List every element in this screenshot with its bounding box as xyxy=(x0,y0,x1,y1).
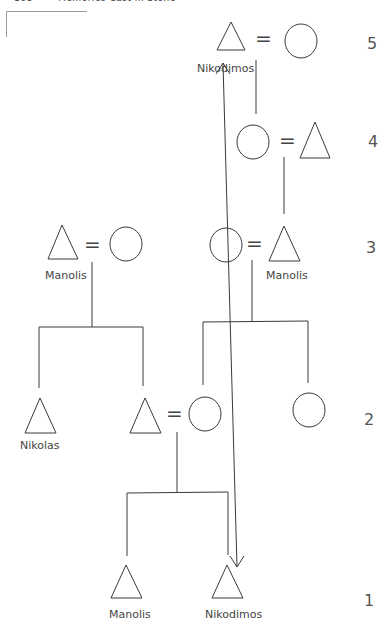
marriage-symbol: = xyxy=(166,401,183,425)
male-triangle-icon xyxy=(130,398,161,433)
name-label: Nikodimos xyxy=(205,608,262,621)
sibling-bar xyxy=(203,321,308,322)
male-triangle-icon xyxy=(25,398,56,433)
gen1-right-individual: Nikodimos xyxy=(205,565,262,621)
gen2-left-individual: Nikolas xyxy=(20,398,60,452)
generation-number: 2 xyxy=(364,410,374,429)
generation-number: 5 xyxy=(367,34,377,53)
female-circle-icon xyxy=(189,397,221,431)
male-triangle-icon xyxy=(48,225,78,259)
gen3-right-couple: = Manolis xyxy=(210,226,308,282)
marriage-symbol: = xyxy=(246,231,263,255)
male-triangle-icon xyxy=(212,565,243,598)
generation-number: 3 xyxy=(366,238,376,257)
male-triangle-icon xyxy=(217,22,245,50)
name-label: Manolis xyxy=(266,269,308,282)
gen3-left-couple: = Manolis xyxy=(45,225,142,282)
male-triangle-icon xyxy=(111,565,142,598)
generation-number: 1 xyxy=(364,591,374,610)
name-label: Nikodimos xyxy=(197,62,254,75)
sibling-bar xyxy=(127,492,228,493)
gen4-couple: = xyxy=(237,122,330,159)
gen5-couple: = Nikodimos xyxy=(197,22,317,75)
kinship-diagram: = Nikodimos = = Manolis = Manolis Nikola… xyxy=(0,0,386,630)
female-circle-icon xyxy=(237,125,269,159)
female-circle-icon xyxy=(285,24,317,58)
name-label: Nikolas xyxy=(20,439,60,452)
marriage-symbol: = xyxy=(255,26,272,50)
female-circle-icon xyxy=(110,227,142,261)
gen1-left-individual: Manolis xyxy=(109,565,151,621)
marriage-symbol: = xyxy=(84,232,101,256)
generation-number: 4 xyxy=(368,132,378,151)
female-circle-icon xyxy=(293,393,325,427)
namesake-arrow xyxy=(223,63,237,567)
gen2-couple: = xyxy=(130,397,221,433)
male-triangle-icon xyxy=(300,122,330,158)
name-label: Manolis xyxy=(109,608,151,621)
marriage-symbol: = xyxy=(279,128,296,152)
male-triangle-icon xyxy=(269,226,300,261)
name-label: Manolis xyxy=(45,269,87,282)
female-circle-icon xyxy=(210,228,242,262)
gen2-right-individual xyxy=(293,393,325,427)
